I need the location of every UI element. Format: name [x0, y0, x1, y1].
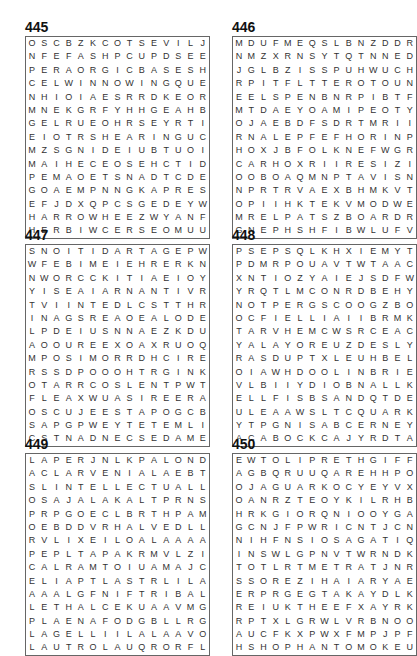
- grid-letter: Y: [404, 285, 416, 298]
- grid-letter: J: [245, 481, 257, 494]
- grid-letter: J: [75, 406, 87, 419]
- grid-letter: C: [404, 325, 416, 338]
- grid-letter: R: [172, 641, 184, 654]
- grid-letter: A: [294, 211, 306, 224]
- grid-letter: L: [38, 481, 50, 494]
- grid-letter: S: [50, 285, 62, 298]
- grid-letter: N: [148, 77, 160, 90]
- grid-letter: E: [172, 392, 184, 405]
- grid-letter: A: [160, 467, 172, 480]
- grid-letter: A: [197, 534, 209, 547]
- grid-letter: L: [318, 406, 330, 419]
- grid-letter: F: [391, 272, 403, 285]
- grid-letter: O: [318, 494, 330, 507]
- grid-letter: L: [26, 628, 38, 641]
- grid-letter: G: [148, 104, 160, 117]
- grid-letter: Z: [294, 272, 306, 285]
- grid-letter: O: [270, 454, 282, 467]
- grid-letter: A: [50, 379, 62, 392]
- grid-letter: D: [379, 198, 391, 211]
- grid-letter: T: [124, 419, 136, 432]
- grid-letter: A: [38, 628, 50, 641]
- grid-letter: A: [148, 245, 160, 258]
- grid-letter: A: [184, 588, 196, 601]
- grid-letter: E: [282, 131, 294, 144]
- grid-letter: H: [111, 117, 123, 130]
- grid-letter: E: [184, 50, 196, 63]
- grid-letter: Y: [379, 508, 391, 521]
- grid-letter: A: [50, 184, 62, 197]
- grid-letter: T: [343, 454, 355, 467]
- grid-letter: E: [355, 158, 367, 171]
- grid-letter: H: [148, 352, 160, 365]
- grid-letter: A: [63, 575, 75, 588]
- grid-letter: O: [99, 366, 111, 379]
- grid-letter: W: [331, 325, 343, 338]
- grid-letter: R: [124, 245, 136, 258]
- grid-letter: K: [331, 144, 343, 157]
- grid-letter: F: [404, 91, 416, 104]
- grid-letter: I: [355, 245, 367, 258]
- grid-letter: E: [172, 198, 184, 211]
- grid-letter: R: [63, 211, 75, 224]
- grid-letter: D: [379, 272, 391, 285]
- grid-letter: B: [148, 615, 160, 628]
- grid-letter: E: [38, 171, 50, 184]
- grid-letter: I: [87, 285, 99, 298]
- grid-letter: A: [148, 272, 160, 285]
- grid-letter: R: [124, 91, 136, 104]
- grid-letter: G: [136, 198, 148, 211]
- grid-letter: I: [50, 299, 62, 312]
- grid-letter: I: [172, 285, 184, 298]
- grid-letter: J: [355, 272, 367, 285]
- grid-letter: U: [99, 392, 111, 405]
- grid-letter: B: [343, 37, 355, 50]
- grid-letter: E: [63, 615, 75, 628]
- grid-letter: R: [148, 366, 160, 379]
- puzzle-446: 446 MDUFMEQSLBNZDDRNMZXRNSYTQTNNEDJGLBZI…: [232, 20, 417, 239]
- grid-letter: C: [306, 285, 318, 298]
- grid-letter: H: [294, 641, 306, 654]
- grid-letter: R: [355, 615, 367, 628]
- grid-letter: L: [282, 454, 294, 467]
- grid-letter: Z: [160, 325, 172, 338]
- grid-letter: C: [87, 272, 99, 285]
- grid-letter: M: [367, 117, 379, 130]
- grid-letter: F: [26, 392, 38, 405]
- grid-letter: H: [391, 285, 403, 298]
- grid-letter: O: [404, 299, 416, 312]
- grid-letter: Y: [404, 339, 416, 352]
- grid-letter: P: [391, 628, 403, 641]
- grid-letter: S: [318, 64, 330, 77]
- grid-letter: E: [63, 184, 75, 197]
- grid-letter: V: [160, 548, 172, 561]
- grid-letter: C: [99, 508, 111, 521]
- grid-letter: D: [294, 117, 306, 130]
- grid-letter: N: [75, 615, 87, 628]
- grid-letter: M: [75, 184, 87, 197]
- grid-letter: J: [379, 628, 391, 641]
- letter-grid: PSEPSQLKHXIEMYTPDMRPOUAVTWTAACXNTIOZYAIE…: [232, 244, 417, 447]
- grid-letter: W: [148, 211, 160, 224]
- grid-letter: A: [404, 508, 416, 521]
- grid-letter: B: [367, 285, 379, 298]
- grid-letter: E: [367, 339, 379, 352]
- grid-letter: N: [184, 494, 196, 507]
- grid-letter: I: [111, 628, 123, 641]
- grid-letter: Y: [160, 117, 172, 130]
- grid-letter: R: [257, 184, 269, 197]
- grid-letter: P: [38, 352, 50, 365]
- grid-letter: O: [111, 37, 123, 50]
- grid-letter: B: [367, 312, 379, 325]
- grid-letter: R: [75, 467, 87, 480]
- grid-letter: G: [282, 588, 294, 601]
- grid-letter: R: [404, 561, 416, 574]
- grid-letter: U: [367, 406, 379, 419]
- grid-letter: G: [75, 588, 87, 601]
- grid-letter: A: [257, 481, 269, 494]
- grid-letter: T: [343, 258, 355, 271]
- grid-letter: A: [111, 245, 123, 258]
- grid-letter: N: [306, 91, 318, 104]
- grid-letter: E: [99, 312, 111, 325]
- grid-letter: E: [294, 37, 306, 50]
